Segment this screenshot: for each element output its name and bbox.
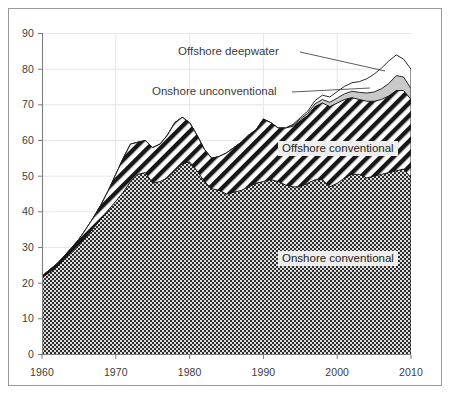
- x-tick-2010: 2010: [389, 366, 433, 378]
- y-tick-90: 90: [8, 27, 34, 39]
- stacked-area-chart: [0, 0, 452, 402]
- label-onshore-conventional: Onshore conventional: [278, 251, 398, 266]
- x-tick-1970: 1970: [94, 366, 138, 378]
- label-offshore-conventional: Offshore conventional: [278, 141, 398, 156]
- x-tick-1980: 1980: [168, 366, 212, 378]
- y-tick-20: 20: [8, 277, 34, 289]
- annotation-onshore-unconventional: Onshore unconventional: [152, 85, 277, 97]
- x-tick-1990: 1990: [241, 366, 285, 378]
- y-tick-0: 0: [8, 348, 34, 360]
- y-tick-70: 70: [8, 98, 34, 110]
- y-tick-40: 40: [8, 205, 34, 217]
- y-tick-80: 80: [8, 63, 34, 75]
- y-tick-50: 50: [8, 170, 34, 182]
- x-tick-1960: 1960: [20, 366, 64, 378]
- y-tick-30: 30: [8, 241, 34, 253]
- y-tick-60: 60: [8, 134, 34, 146]
- x-tick-2000: 2000: [315, 366, 359, 378]
- annotation-offshore-deepwater: Offshore deepwater: [178, 45, 279, 57]
- y-tick-10: 10: [8, 312, 34, 324]
